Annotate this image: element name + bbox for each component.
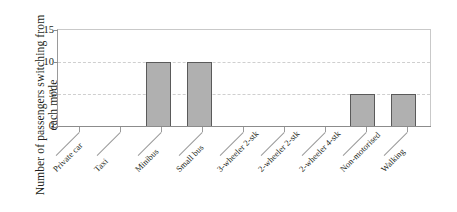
x-tickmark-small-bus	[202, 127, 203, 132]
bar-minibus	[146, 62, 171, 127]
leader-line-taxi	[97, 132, 121, 156]
leader-line-non-motorised	[343, 132, 367, 156]
bar-walking	[391, 94, 416, 127]
x-tickmark-walking	[407, 127, 408, 132]
x-axis-line	[57, 126, 431, 127]
x-tickmark-3-wheeler-2-stk	[243, 127, 244, 132]
x-tickmark-2-wheeler-4-stk	[325, 127, 326, 132]
leader-line-2-wheeler-2-stk	[261, 132, 285, 156]
x-tickmark-minibus	[161, 127, 162, 132]
y-tickmark-0	[54, 127, 58, 128]
bar-non-motorised	[350, 94, 375, 127]
x-tickmark-taxi	[120, 127, 121, 132]
x-tick-label-taxi: Taxi	[93, 157, 110, 174]
leader-line-walking	[384, 132, 408, 156]
x-tick-label-walking: Walking	[380, 147, 407, 174]
leader-line-small-bus	[179, 132, 203, 156]
y-tick-label-0: 0	[30, 121, 54, 131]
y-tickmark-15	[54, 30, 58, 31]
y-axis-tick-labels: 15 10 5 0	[28, 0, 54, 212]
y-tickmark-5	[54, 94, 58, 95]
leader-line-2-wheeler-4-stk	[302, 132, 326, 156]
x-tick-label-2-wheeler-4-stk: 2-wheeler 4-stk	[298, 129, 343, 174]
y-tick-label-10: 10	[30, 57, 54, 67]
leader-line-minibus	[138, 132, 162, 156]
leader-line-3-wheeler-2-stk	[220, 132, 244, 156]
x-tick-label-non-motorised: Non-motorised	[339, 130, 383, 174]
y-tick-label-5: 5	[30, 89, 54, 99]
x-tick-label-2-wheeler-2-stk: 2-wheeler 2-stk	[257, 129, 302, 174]
y-tick-label-15: 15	[30, 25, 54, 35]
x-tickmark-2-wheeler-2-stk	[284, 127, 285, 132]
y-tickmark-10	[54, 62, 58, 63]
x-tickmark-private-car	[79, 127, 80, 132]
x-tick-label-3-wheeler-2-stk: 3-wheeler 2-stk	[216, 129, 261, 174]
x-tickmark-non-motorised	[366, 127, 367, 132]
plot-area	[57, 29, 431, 127]
bar-small-bus	[187, 62, 212, 127]
gridline-10	[58, 62, 430, 63]
x-tick-label-small-bus: Small bus	[175, 143, 206, 174]
bar-chart-figure: Number of passengers switching from each…	[0, 0, 457, 212]
x-tick-label-minibus: Minibus	[134, 147, 161, 174]
